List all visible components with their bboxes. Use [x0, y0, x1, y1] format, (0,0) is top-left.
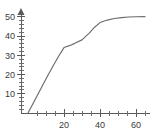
x-tick-label-40: 40	[95, 120, 105, 130]
x-tick-label-20: 20	[59, 120, 69, 130]
line-chart: 10 20 30 40 50 20 40 60	[0, 0, 154, 135]
y-tick-label-20: 20	[5, 70, 15, 80]
y-tick-label-10: 10	[5, 89, 15, 99]
y-tick-label-50: 50	[5, 12, 15, 22]
y-tick-label-30: 30	[5, 51, 15, 61]
x-tick-label-60: 60	[131, 120, 141, 130]
y-tick-label-40: 40	[5, 31, 15, 41]
data-series-line	[28, 17, 145, 113]
chart-plot-area: 10 20 30 40 50 20 40 60	[0, 0, 154, 135]
